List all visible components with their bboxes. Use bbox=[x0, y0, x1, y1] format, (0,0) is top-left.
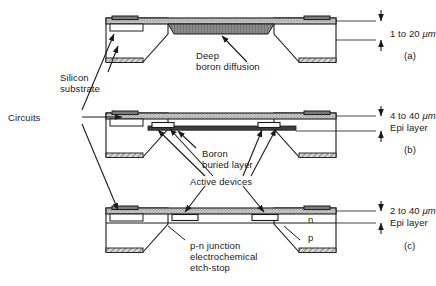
panel-tag-b: (b) bbox=[404, 144, 416, 155]
dimension-b: 4 to 40 μm bbox=[390, 110, 436, 121]
label-silicon-substrate: Silicon substrate bbox=[60, 72, 100, 94]
label-deep-boron-diffusion: Deep boron diffusion bbox=[196, 50, 260, 72]
label-pn-junction-etch-stop: p-n junction electrochemical etch-stop bbox=[190, 240, 258, 273]
panel-tag-c: (c) bbox=[404, 240, 415, 251]
label-boron-buried-layer: Boron buried layer bbox=[202, 148, 253, 170]
label-epi-layer-b: Epi layer bbox=[390, 122, 428, 133]
label-region-p: p bbox=[308, 232, 313, 243]
dimension-a: 1 to 20 μm bbox=[390, 28, 436, 39]
label-region-n: n bbox=[308, 214, 313, 225]
panel-tag-a: (a) bbox=[404, 50, 416, 61]
label-circuits: Circuits bbox=[8, 112, 40, 123]
label-active-devices: Active devices bbox=[190, 176, 252, 187]
dimension-c: 2 to 40 μm bbox=[390, 205, 436, 216]
label-epi-layer-c: Epi layer bbox=[390, 217, 428, 228]
